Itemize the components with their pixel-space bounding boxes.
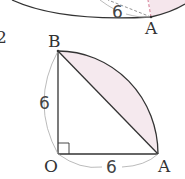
geometry-diagram: 6 A 2 B O A 6 6 — [0, 0, 185, 179]
right-angle-mark — [58, 143, 69, 154]
main-figure: B O A 6 6 — [39, 31, 171, 177]
top-figure: 6 A — [12, 0, 185, 38]
top-point-a-label: A — [144, 18, 158, 38]
top-shaded-region — [149, 0, 185, 17]
point-b-label: B — [48, 31, 61, 51]
problem-number: 2 — [0, 27, 7, 47]
point-a-label: A — [157, 156, 171, 176]
top-length-label: 6 — [112, 2, 123, 22]
side-oa-length: 6 — [106, 157, 117, 177]
side-ob-length: 6 — [39, 93, 50, 113]
point-o-label: O — [44, 156, 58, 176]
